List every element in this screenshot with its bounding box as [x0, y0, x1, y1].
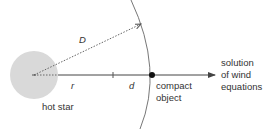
wind-geometry-diagram: D r d hot star compact object solution o… [0, 0, 279, 133]
label-d: d [129, 80, 135, 91]
label-solution: solution [221, 57, 254, 68]
label-object: object [156, 92, 182, 103]
label-D: D [79, 34, 86, 45]
distance-D-line [34, 24, 141, 75]
label-compact: compact [156, 80, 192, 91]
label-r: r [71, 80, 75, 91]
label-equations: equations [221, 81, 262, 92]
wind-arc [131, 0, 150, 129]
label-hot-star: hot star [42, 101, 74, 112]
label-of-wind: of wind [221, 69, 251, 80]
compact-object-dot [149, 72, 155, 78]
